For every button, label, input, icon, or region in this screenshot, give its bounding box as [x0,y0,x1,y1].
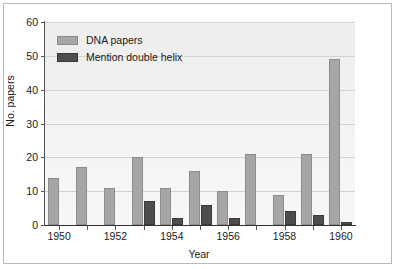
bar-mention-double-helix-1956 [229,218,240,225]
bar-dna-papers-1960 [329,59,340,225]
y-tick-label: 0 [0,220,38,231]
bar-dna-papers-1955 [189,171,200,225]
legend-label: DNA papers [86,35,143,46]
x-tick-label: 1960 [329,231,352,242]
x-tick-label: 1954 [160,231,183,242]
bar-dna-papers-1953 [132,157,143,225]
bar-dna-papers-1954 [160,188,171,225]
bar-dna-papers-1956 [217,191,228,225]
y-tick-mark [41,22,45,23]
bar-dna-papers-1958 [273,195,284,225]
light-gray-swatch-icon [57,36,78,45]
x-tick-label: 1952 [104,231,127,242]
bar-mention-double-helix-1954 [172,218,183,225]
x-tick-mark [313,226,314,230]
legend-item-mention-double-helix: Mention double helix [57,50,182,65]
y-tick-mark [41,56,45,57]
bar-mention-double-helix-1959 [313,215,324,225]
bar-dna-papers-1952 [104,188,115,225]
bar-dna-papers-1959 [301,154,312,225]
dark-gray-swatch-icon [57,53,78,62]
y-tick-mark [41,124,45,125]
x-tick-label: 1956 [216,231,239,242]
y-tick-label: 60 [0,17,38,28]
gridline [45,90,355,91]
y-tick-label: 10 [0,186,38,197]
y-tick-mark [41,225,45,226]
x-tick-mark [200,226,201,230]
bar-dna-papers-1957 [245,154,256,225]
chart-legend: DNA papers Mention double helix [57,33,182,67]
x-tick-mark [256,226,257,230]
bar-dna-papers-1951 [76,167,87,225]
y-tick-mark [41,157,45,158]
legend-item-dna-papers: DNA papers [57,33,182,48]
bar-chart-figure: 0102030405060 195019521954195619581960 N… [0,0,398,269]
x-axis-title: Year [0,248,398,260]
gridline [45,22,355,23]
y-tick-mark [41,90,45,91]
legend-label: Mention double helix [86,52,182,63]
bar-mention-double-helix-1953 [144,201,155,225]
x-tick-label: 1958 [273,231,296,242]
gridline [45,124,355,125]
bar-mention-double-helix-1955 [201,205,212,225]
y-tick-label: 20 [0,152,38,163]
x-tick-label: 1950 [47,231,70,242]
y-tick-mark [41,191,45,192]
x-tick-mark [144,226,145,230]
bar-mention-double-helix-1958 [285,211,296,225]
bar-dna-papers-1950 [48,178,59,225]
x-tick-mark [87,226,88,230]
y-axis-title: No. papers [4,61,16,141]
